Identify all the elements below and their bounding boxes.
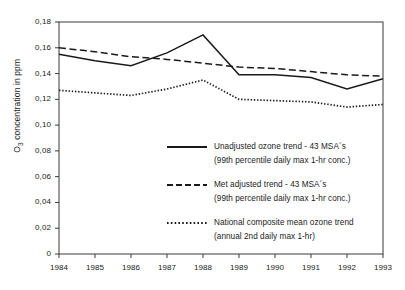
legend-item-sublabel-line3: (annual 2nd daily max 1-hr) — [214, 232, 315, 241]
legend-item-label-line2: Met adjusted trend - 43 MSA´s — [214, 180, 327, 189]
data-series-line — [59, 80, 383, 107]
data-series-line — [59, 35, 383, 89]
legend-item-sublabel-line1: (99th percentile daily max 1-hr conc.) — [214, 156, 351, 165]
y-axis-ticks — [55, 22, 59, 254]
x-axis-ticks — [59, 254, 383, 258]
legend-item-sublabel-line2: (99th percentile daily max 1-hr conc.) — [214, 194, 351, 203]
legend-item-label-line3: National composite mean ozone trend — [214, 218, 354, 227]
ozone-trend-chart-figure: O3 concentration in ppm 00,020,040,060,0… — [0, 0, 405, 290]
data-series-group — [59, 35, 383, 107]
legend-item-label-line1: Unadjusted ozone trend - 43 MSA´s — [214, 142, 346, 151]
legend-line-samples — [167, 147, 207, 223]
